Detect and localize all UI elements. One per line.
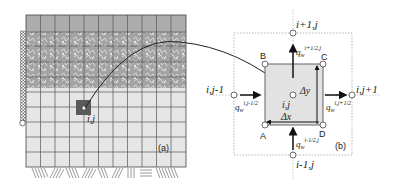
corner-a	[262, 122, 268, 128]
label-corner-d: D	[319, 129, 326, 139]
node-top	[290, 30, 296, 36]
boundary-node	[20, 120, 26, 126]
svg-text:qwi+1/2,j: qwi+1/2,j	[296, 45, 321, 58]
label-corner-c: C	[321, 52, 328, 62]
ground-hatching	[32, 168, 178, 178]
label-left-node: i,j-1	[206, 83, 224, 95]
vegetation-band	[26, 32, 186, 88]
label-bottom-node: i-1,j	[296, 158, 314, 170]
node-left	[231, 92, 237, 98]
node-right	[349, 92, 355, 98]
cell-label: i,j	[87, 113, 95, 124]
panel-a-label: (a)	[158, 143, 169, 153]
panel-b: i+1,j i-1,j i,j-1 i,j+1 i,j B C A D Δx Δ…	[206, 10, 380, 180]
label-dx: Δx	[280, 111, 292, 122]
panel-b-label: (b)	[335, 141, 346, 151]
label-center-node: i,j	[282, 99, 290, 110]
corner-d	[320, 122, 326, 128]
svg-text:qwi,j+1/2: qwi,j+1/2	[326, 100, 351, 113]
svg-text:qwi,j-1/2: qwi,j-1/2	[235, 100, 258, 113]
flux-label-left: qwi,j-1/2	[235, 100, 258, 113]
label-right-node: i,j+1	[356, 83, 378, 95]
flux-label-bottom: qwi-1/2,j	[296, 137, 319, 150]
label-dy: Δy	[299, 85, 311, 96]
label-corner-a: A	[260, 131, 266, 141]
label-top-node: i+1,j	[296, 18, 318, 30]
flux-label-top: qwi+1/2,j	[296, 45, 321, 58]
diagram-canvas: i,j (a)	[0, 0, 396, 188]
panel-a: i,j (a)	[20, 15, 186, 178]
flux-label-right: qwi,j+1/2	[326, 100, 351, 113]
corner-b	[262, 61, 268, 67]
top-band	[26, 15, 186, 32]
svg-text:qwi-1/2,j: qwi-1/2,j	[296, 137, 319, 150]
node-center	[290, 92, 296, 98]
left-boundary-bar	[21, 31, 26, 121]
label-corner-b: B	[260, 51, 266, 61]
